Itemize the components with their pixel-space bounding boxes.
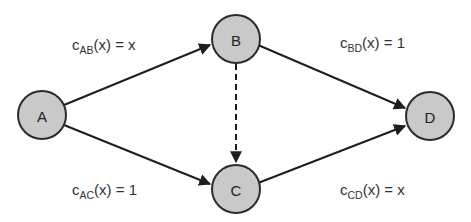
cost-expression: (x) = x: [363, 181, 406, 198]
node-b: B: [212, 15, 260, 63]
cost-subscript: AB: [80, 44, 94, 56]
node-d: D: [406, 92, 454, 140]
edge-label-ab: cAB(x) = x: [72, 36, 136, 56]
edge-label-bd: cBD(x) = 1: [340, 34, 405, 54]
edge-a-c: [64, 125, 210, 184]
node-c-label: C: [231, 182, 242, 199]
cost-expression: (x) = x: [94, 36, 137, 53]
cost-subscript: BD: [348, 42, 363, 54]
edge-label-ac: cAC(x) = 1: [72, 181, 137, 201]
node-b-label: B: [231, 32, 241, 49]
node-a: A: [18, 91, 66, 139]
edge-b-d: [258, 45, 405, 108]
node-a-label: A: [37, 108, 47, 125]
cost-subscript: CD: [348, 189, 364, 201]
edge-c-d: [258, 126, 405, 183]
cost-expression: (x) = 1: [362, 34, 405, 51]
network-diagram: cAB(x) = x cBD(x) = 1 cAC(x) = 1 cCD(x) …: [0, 0, 471, 222]
cost-subscript: AC: [80, 189, 95, 201]
node-d-label: D: [425, 109, 436, 126]
cost-expression: (x) = 1: [94, 181, 137, 198]
node-c: C: [212, 165, 260, 213]
edge-label-cd: cCD(x) = x: [340, 181, 405, 201]
